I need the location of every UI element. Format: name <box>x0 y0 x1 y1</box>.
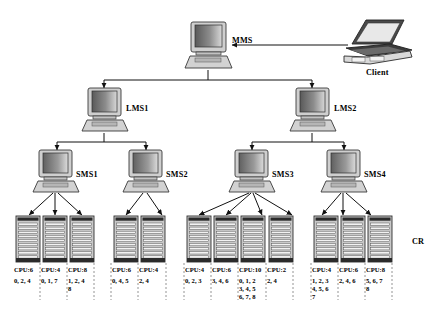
node-lms2[interactable] <box>290 88 336 131</box>
node-client[interactable] <box>344 20 412 64</box>
cr-rack[interactable] <box>341 216 365 262</box>
node-sms3[interactable] <box>229 150 275 192</box>
cr-cpu-cell: CPU:41, 2, 34, 5, 67 <box>312 266 340 302</box>
cr-job-line: 8 <box>68 285 96 293</box>
node-label-client: Client <box>366 68 389 77</box>
cr-rack-group <box>16 216 392 262</box>
cr-cpu-cell: CPU:22, 4 <box>267 266 295 285</box>
cr-cpu-cell: CPU:40, 1, 7 <box>41 266 69 285</box>
cr-cpu-cell: CPU:81, 2, 48 <box>68 266 96 293</box>
node-label-sms4: SMS4 <box>364 170 386 179</box>
cr-job-line: 0, 1, 2 <box>239 277 267 285</box>
cr-job-list: 2, 4 <box>267 277 295 285</box>
cr-job-line: 0, 2, 4 <box>14 277 42 285</box>
cr-cpu-count: CPU:6 <box>112 266 140 274</box>
cr-job-line: 2, 4 <box>139 277 167 285</box>
node-mms[interactable] <box>185 22 232 68</box>
cr-job-list: 1, 2, 34, 5, 67 <box>312 277 340 302</box>
diagram-canvas: MMS Client LMS1 LMS2 SMS1 SMS2 SMS3 SMS4… <box>0 0 438 329</box>
cr-cpu-cell: CPU:60, 4, 5 <box>112 266 140 285</box>
cr-cpu-count: CPU:10 <box>239 266 267 274</box>
cr-rack[interactable] <box>314 216 338 262</box>
cr-rack[interactable] <box>141 216 165 262</box>
cr-cpu-count: CPU:8 <box>366 266 394 274</box>
cr-job-list: 1, 2, 48 <box>68 277 96 294</box>
cr-rack[interactable] <box>16 216 40 262</box>
node-label-mms: MMS <box>232 36 253 45</box>
cr-job-line: 2, 4, 6 <box>339 277 367 285</box>
cr-job-line: 3, 4, 6 <box>212 277 240 285</box>
cr-job-list: 2, 4 <box>139 277 167 285</box>
cr-job-list: 0, 2, 3 <box>185 277 213 285</box>
cr-job-line: 1, 2, 4 <box>68 277 96 285</box>
cr-job-line: 7 <box>312 293 340 301</box>
cr-job-line: 3, 4, 5 <box>239 285 267 293</box>
cr-job-line: 0, 2, 3 <box>185 277 213 285</box>
cr-cpu-count: CPU:6 <box>14 266 42 274</box>
cr-job-line: 0, 4, 5 <box>112 277 140 285</box>
cr-job-list: 0, 1, 7 <box>41 277 69 285</box>
cr-cpu-count: CPU:4 <box>41 266 69 274</box>
cr-cpu-count: CPU:2 <box>267 266 295 274</box>
cr-cpu-count: CPU:8 <box>68 266 96 274</box>
cr-rack[interactable] <box>269 216 293 262</box>
node-sms4[interactable] <box>321 150 367 192</box>
cr-job-line: 6, 7, 8 <box>239 293 267 301</box>
node-sms2[interactable] <box>123 150 169 192</box>
cr-job-line: 1, 2, 3 <box>312 277 340 285</box>
cr-job-line: 2, 4 <box>267 277 295 285</box>
cr-rack[interactable] <box>187 216 211 262</box>
cr-label: CR <box>412 237 424 246</box>
cr-job-list: 5, 6, 78 <box>366 277 394 294</box>
cr-cpu-count: CPU:4 <box>139 266 167 274</box>
cr-rack[interactable] <box>114 216 138 262</box>
cr-job-line: 5, 6, 7 <box>366 277 394 285</box>
node-label-lms1: LMS1 <box>126 104 149 113</box>
cr-job-line: 0, 1, 7 <box>41 277 69 285</box>
cr-job-list: 2, 4, 6 <box>339 277 367 285</box>
cr-cpu-cell: CPU:60, 2, 4 <box>14 266 42 285</box>
cr-job-line: 8 <box>366 285 394 293</box>
cr-rack[interactable] <box>241 216 265 262</box>
node-lms1[interactable] <box>82 88 128 131</box>
cr-rack[interactable] <box>43 216 67 262</box>
cr-cpu-cell: CPU:62, 4, 6 <box>339 266 367 285</box>
cr-job-list: 3, 4, 6 <box>212 277 240 285</box>
cr-cpu-count: CPU:4 <box>312 266 340 274</box>
node-sms1[interactable] <box>33 150 79 192</box>
cr-job-line: 4, 5, 6 <box>312 285 340 293</box>
cr-cpu-count: CPU:6 <box>339 266 367 274</box>
cr-cpu-cell: CPU:40, 2, 3 <box>185 266 213 285</box>
cr-cpu-count: CPU:4 <box>185 266 213 274</box>
cr-cpu-cell: CPU:63, 4, 6 <box>212 266 240 285</box>
cr-job-list: 0, 2, 4 <box>14 277 42 285</box>
node-label-sms3: SMS3 <box>272 170 294 179</box>
cr-cpu-count: CPU:6 <box>212 266 240 274</box>
cr-cpu-cell: CPU:85, 6, 78 <box>366 266 394 293</box>
cr-job-list: 0, 1, 23, 4, 56, 7, 8 <box>239 277 267 302</box>
cr-job-list: 0, 4, 5 <box>112 277 140 285</box>
node-label-sms2: SMS2 <box>166 170 188 179</box>
node-label-lms2: LMS2 <box>334 104 357 113</box>
cr-rack[interactable] <box>70 216 94 262</box>
cr-rack[interactable] <box>214 216 238 262</box>
cr-cpu-cell: CPU:42, 4 <box>139 266 167 285</box>
node-label-sms1: SMS1 <box>76 170 98 179</box>
cr-cpu-cell: CPU:100, 1, 23, 4, 56, 7, 8 <box>239 266 267 302</box>
cr-rack[interactable] <box>368 216 392 262</box>
